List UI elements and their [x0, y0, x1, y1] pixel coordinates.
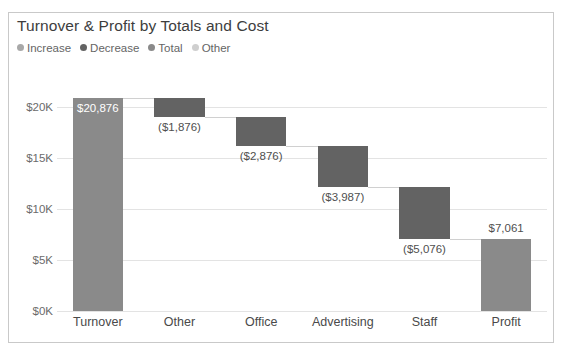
y-axis: $0K$5K$10K$15K$20K: [9, 76, 53, 311]
legend-swatch-icon: [192, 44, 199, 51]
bar-advertising[interactable]: [318, 146, 369, 187]
bar-office[interactable]: [236, 117, 287, 146]
bar-value-label: ($3,987): [321, 191, 364, 203]
gridline: [57, 260, 547, 261]
y-tick-label: $20K: [26, 101, 53, 113]
x-tick-label-profit: Profit: [492, 315, 521, 329]
plot-area: $20,876($1,876)($2,876)($3,987)($5,076)$…: [57, 76, 547, 311]
x-tick-label-other: Other: [164, 315, 195, 329]
legend-swatch-icon: [148, 44, 155, 51]
y-tick-label: $10K: [26, 203, 53, 215]
x-tick-label-office: Office: [245, 315, 277, 329]
x-tick-label-staff: Staff: [412, 315, 437, 329]
gridline: [57, 158, 547, 159]
bar-value-label: ($1,876): [158, 121, 201, 133]
bar-value-label: $20,876: [77, 102, 119, 114]
legend-swatch-icon: [80, 44, 87, 51]
legend-item-label: Increase: [27, 42, 71, 54]
x-axis: TurnoverOtherOfficeAdvertisingStaffProfi…: [57, 315, 547, 335]
bar-other[interactable]: [154, 98, 205, 117]
connector-line: [123, 98, 154, 99]
y-tick-label: $5K: [33, 254, 53, 266]
connector-line: [368, 187, 399, 188]
bar-staff[interactable]: [399, 187, 450, 239]
connector-line: [286, 146, 317, 147]
legend-item-decrease[interactable]: Decrease: [80, 42, 139, 54]
chart-title: Turnover & Profit by Totals and Cost: [17, 17, 269, 35]
chart-legend: IncreaseDecreaseTotalOther: [17, 40, 230, 55]
x-tick-label-advertising: Advertising: [312, 315, 374, 329]
bar-value-label: $7,061: [489, 222, 524, 234]
legend-item-label: Decrease: [90, 42, 139, 54]
y-tick-label: $0K: [33, 305, 53, 317]
gridline: [57, 311, 547, 312]
gridline: [57, 209, 547, 210]
connector-line: [205, 117, 236, 118]
bar-value-label: ($2,876): [240, 150, 283, 162]
bar-value-label: ($5,076): [403, 243, 446, 255]
x-tick-label-turnover: Turnover: [73, 315, 123, 329]
legend-item-increase[interactable]: Increase: [17, 42, 71, 54]
gridline: [57, 107, 547, 108]
bar-profit[interactable]: [481, 239, 532, 311]
legend-item-total[interactable]: Total: [148, 42, 182, 54]
legend-swatch-icon: [17, 44, 24, 51]
connector-line: [450, 239, 481, 240]
legend-item-label: Total: [158, 42, 182, 54]
y-tick-label: $15K: [26, 152, 53, 164]
legend-item-label: Other: [202, 42, 231, 54]
chart-card: Turnover & Profit by Totals and Cost Inc…: [8, 12, 554, 343]
legend-item-other[interactable]: Other: [192, 42, 231, 54]
bar-turnover[interactable]: [73, 98, 124, 311]
